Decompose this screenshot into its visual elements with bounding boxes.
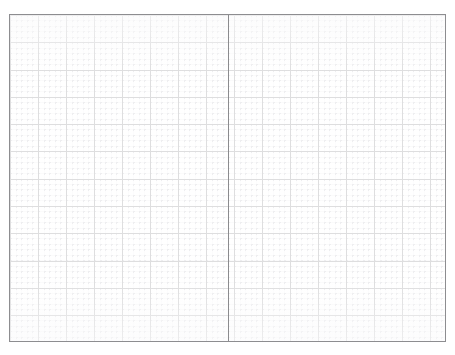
screenshot-canvas [0, 0, 455, 355]
notebook-spread [9, 14, 446, 342]
center-binding-fold [228, 15, 229, 341]
left-page[interactable] [10, 15, 228, 341]
right-page[interactable] [229, 15, 445, 341]
